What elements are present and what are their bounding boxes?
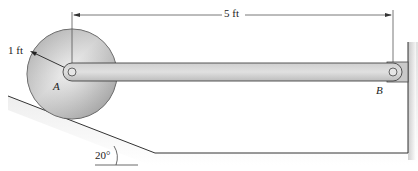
point-b-label: B <box>376 84 383 96</box>
angle-label: 20° <box>95 149 110 161</box>
dimension-label: 5 ft <box>224 7 239 19</box>
pin-b <box>389 68 397 76</box>
link-bar <box>63 63 402 81</box>
pin-a <box>68 68 76 76</box>
radius-label: 1 ft <box>8 44 23 56</box>
diagram-canvas <box>0 0 418 171</box>
point-a-label: A <box>53 80 60 92</box>
